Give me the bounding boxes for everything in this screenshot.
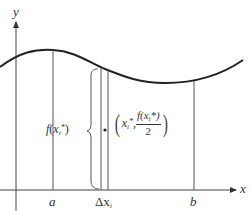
height-label: f(xi*)	[46, 123, 69, 137]
centroid-x: xi*,	[122, 117, 136, 131]
strip-width-label: Δxi	[95, 195, 112, 210]
function-curve	[0, 50, 243, 83]
diagram-svg	[0, 0, 250, 211]
a-label: a	[49, 195, 56, 208]
y-axis-label: y	[13, 5, 19, 18]
diagram-canvas: y x a b Δxi f(xi*) ( xi*, f(xi*) 2 )	[0, 0, 250, 211]
centroid-dot	[103, 128, 106, 131]
x-axis-label: x	[240, 182, 246, 195]
centroid-label: ( xi*, f(xi*) 2 )	[113, 110, 169, 137]
strip-width-subscript: i	[110, 202, 112, 210]
fraction-numerator: f(xi*)	[136, 110, 161, 125]
fraction-denominator: 2	[146, 125, 152, 137]
delta-symbol: Δx	[95, 194, 110, 209]
centroid-y-fraction: f(xi*) 2	[136, 110, 161, 137]
b-label: b	[190, 195, 197, 208]
height-brace	[87, 69, 99, 189]
